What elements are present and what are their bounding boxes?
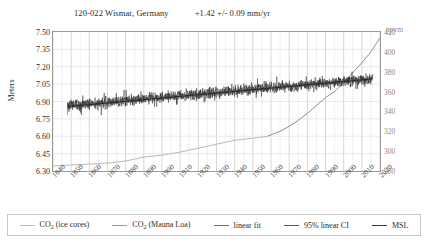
legend-label: CO2 (Mauna Loa) (132, 220, 190, 230)
y-tick-left: 6.90 (4, 97, 50, 106)
y-tick-left: 6.45 (4, 149, 50, 158)
legend-item-co2-mauna-loa[interactable]: CO2 (Mauna Loa) (112, 220, 190, 230)
y-tick-right: 340 (384, 107, 424, 116)
legend-item-msl[interactable]: MSL (372, 221, 408, 230)
y-tick-left: 6.60 (4, 132, 50, 141)
legend-swatch-icon (284, 225, 299, 226)
y-tick-left: 7.50 (4, 28, 50, 37)
y-tick-left: 7.05 (4, 80, 50, 89)
y-tick-right: 380 (384, 67, 424, 76)
plot-area (52, 31, 381, 172)
legend-item-linear-fit[interactable]: linear fit (214, 221, 261, 230)
legend-swatch-icon (214, 225, 229, 226)
y-tick-left: 6.75 (4, 114, 50, 123)
y-tick-left: 7.35 (4, 45, 50, 54)
chart-page: 120-022 Wismar, Germany+1.42 +/- 0.09 mm… (0, 0, 428, 241)
y-tick-right: 300 (384, 147, 424, 156)
legend-swatch-icon (112, 225, 127, 226)
legend-item-linear-ci[interactable]: 95% linear CI (284, 221, 349, 230)
y-axis-right-ticks: 420400380360340320300280 (384, 31, 428, 172)
legend-item-co2-ice-cores[interactable]: CO2 (ice cores) (20, 220, 90, 230)
y-tick-right: 400 (384, 47, 424, 56)
y-tick-right: 360 (384, 87, 424, 96)
x-axis-ticks: 1840185018601870188018901900191019201930… (52, 173, 381, 205)
legend-swatch-icon (372, 225, 387, 226)
legend-label: MSL (392, 221, 408, 230)
legend-label: CO2 (ice cores) (40, 220, 90, 230)
y-tick-left: 6.30 (4, 167, 50, 176)
chart-legend: CO2 (ice cores)CO2 (Mauna Loa)linear fit… (7, 214, 421, 236)
station-name: 120-022 Wismar, Germany (74, 8, 169, 18)
legend-swatch-icon (20, 225, 35, 226)
legend-label: linear fit (234, 221, 261, 230)
trend-value: +1.42 +/- 0.09 mm/yr (195, 8, 271, 18)
chart-title: 120-022 Wismar, Germany+1.42 +/- 0.09 mm… (74, 8, 270, 18)
y-tick-right: 320 (384, 127, 424, 136)
legend-label: 95% linear CI (304, 221, 349, 230)
y-tick-right: 420 (384, 28, 424, 37)
y-axis-left-ticks: 7.507.357.207.056.906.756.606.456.30 (0, 31, 50, 172)
y-tick-left: 7.20 (4, 62, 50, 71)
